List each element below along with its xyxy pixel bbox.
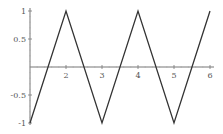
y-tick-label: 1 [21, 7, 26, 16]
y-tick-label: 0.5 [13, 35, 26, 44]
x-tick-label: 2 [63, 71, 68, 80]
x-tick-label: 6 [207, 71, 212, 80]
y-tick-label: -1 [18, 119, 26, 128]
axes [30, 8, 214, 125]
triangle-wave-chart: 2345610.5-0.5-1 [0, 0, 223, 134]
y-tick-label: -0.5 [11, 91, 26, 100]
x-tick-label: 5 [171, 71, 176, 80]
x-tick-label: 4 [135, 71, 140, 80]
x-tick-label: 3 [99, 71, 104, 80]
